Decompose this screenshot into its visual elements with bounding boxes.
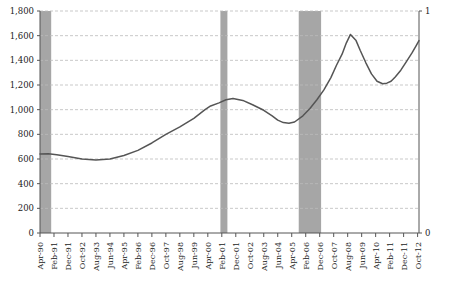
y2-axis-tick-labels: 01 xyxy=(419,6,430,238)
x-tick-label: Jun-09 xyxy=(358,242,367,269)
x-tick-label: Dec-91 xyxy=(64,242,73,271)
x-tick-label: Aug-93 xyxy=(92,242,101,272)
gridlines xyxy=(40,11,419,208)
recession-band xyxy=(40,11,51,233)
y2-tick-label: 1 xyxy=(425,6,430,16)
y-tick-label: 200 xyxy=(18,203,34,213)
x-axis-tick-labels: Apr-90Feb-91Dec-91Oct-92Aug-93Jun-94Apr-… xyxy=(36,242,423,272)
y-tick-label: 1,400 xyxy=(10,55,34,65)
x-axis-ticks xyxy=(40,233,418,237)
data-line xyxy=(40,34,419,160)
x-tick-label: Oct-02 xyxy=(246,242,255,269)
x-tick-label: Aug-98 xyxy=(176,242,185,272)
x-tick-label: Feb-11 xyxy=(386,242,395,270)
y-tick-label: 1,200 xyxy=(10,80,34,90)
y-tick-label: 1,000 xyxy=(10,105,34,115)
x-tick-label: Apr-10 xyxy=(372,242,381,271)
x-tick-label: Jun-94 xyxy=(106,242,115,269)
x-tick-label: Dec-06 xyxy=(316,242,325,271)
x-tick-label: Aug-03 xyxy=(260,242,269,272)
x-tick-label: Oct-12 xyxy=(414,242,423,269)
x-tick-label: Jun-99 xyxy=(190,242,199,269)
x-tick-label: Oct-97 xyxy=(162,242,171,269)
x-tick-label: Oct-92 xyxy=(78,242,87,269)
x-tick-label: Apr-90 xyxy=(36,242,45,271)
x-tick-label: Apr-05 xyxy=(288,242,297,271)
x-tick-label: Dec-11 xyxy=(400,242,409,271)
x-tick-label: Aug-08 xyxy=(344,242,353,272)
x-tick-label: Feb-06 xyxy=(302,242,311,270)
x-tick-label: Dec-01 xyxy=(232,242,241,271)
x-tick-label: Oct-07 xyxy=(330,242,339,269)
recession-band xyxy=(220,11,227,233)
axes xyxy=(40,11,419,233)
y-tick-label: 1,600 xyxy=(10,31,34,41)
y-tick-label: 800 xyxy=(18,129,34,139)
x-tick-label: Apr-00 xyxy=(204,242,213,271)
x-tick-label: Feb-01 xyxy=(218,242,227,270)
y-axis-tick-labels: 02004006008001,0001,2001,4001,6001,800 xyxy=(10,6,40,238)
y-tick-label: 1,800 xyxy=(10,6,34,16)
series-line-index xyxy=(40,34,419,160)
x-tick-label: Dec-96 xyxy=(148,242,157,271)
y-tick-label: 400 xyxy=(18,179,34,189)
chart-container: 02004006008001,0001,2001,4001,6001,800 0… xyxy=(0,0,458,286)
y-tick-label: 600 xyxy=(18,154,34,164)
x-tick-label: Feb-91 xyxy=(50,242,59,270)
line-chart: 02004006008001,0001,2001,4001,6001,800 0… xyxy=(0,0,458,286)
y2-tick-label: 0 xyxy=(425,228,430,238)
recession-bands xyxy=(40,11,321,233)
recession-band xyxy=(299,11,321,233)
x-tick-label: Feb-96 xyxy=(134,242,143,270)
y-tick-label: 0 xyxy=(29,228,34,238)
x-tick-label: Jun-04 xyxy=(274,242,283,269)
x-tick-label: Apr-95 xyxy=(120,242,129,271)
